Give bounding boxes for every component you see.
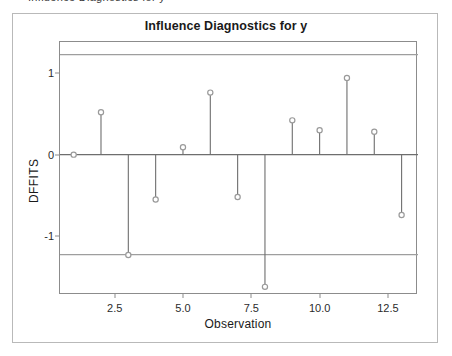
data-point-marker[interactable]	[372, 129, 377, 134]
x-tick-mark	[387, 293, 388, 298]
y-axis-title: DFFITS	[27, 54, 41, 307]
y-tick-mark	[55, 73, 60, 74]
x-tick-mark	[251, 293, 252, 298]
data-point-marker[interactable]	[208, 90, 213, 95]
data-point-marker[interactable]	[262, 284, 267, 289]
data-point-marker[interactable]	[344, 75, 349, 80]
data-point-marker[interactable]	[126, 252, 131, 257]
x-axis-title: Observation	[59, 317, 417, 331]
x-tick-label: 5.0	[175, 302, 190, 314]
x-tick-mark	[319, 293, 320, 298]
data-point-marker[interactable]	[98, 110, 103, 115]
data-point-marker[interactable]	[71, 152, 76, 157]
plot-area: 10-12.55.07.510.012.5	[59, 41, 417, 294]
top-cropped-title-text: Influence Diagnostics for y	[28, 0, 165, 3]
x-tick-mark	[114, 293, 115, 298]
chart-title: Influence Diagnostics for y	[13, 19, 439, 33]
x-tick-label: 2.5	[107, 302, 122, 314]
data-point-marker[interactable]	[290, 118, 295, 123]
y-tick-label: -1	[44, 230, 54, 242]
x-tick-label: 7.5	[244, 302, 259, 314]
plot-canvas	[59, 41, 419, 296]
data-point-marker[interactable]	[180, 145, 185, 150]
y-tick-label: 0	[48, 149, 54, 161]
figure-frame: Influence Diagnostics for y DFFITS 10-12…	[12, 13, 438, 343]
y-tick-mark	[55, 236, 60, 237]
y-tick-mark	[55, 154, 60, 155]
y-tick-label: 1	[48, 67, 54, 79]
data-point-marker[interactable]	[235, 194, 240, 199]
x-tick-label: 12.5	[377, 302, 398, 314]
x-tick-mark	[182, 293, 183, 298]
x-tick-label: 10.0	[309, 302, 330, 314]
data-point-marker[interactable]	[153, 197, 158, 202]
top-cropped-text-strip: Influence Diagnostics for y	[0, 0, 452, 12]
data-point-marker[interactable]	[317, 128, 322, 133]
data-point-marker[interactable]	[399, 212, 404, 217]
